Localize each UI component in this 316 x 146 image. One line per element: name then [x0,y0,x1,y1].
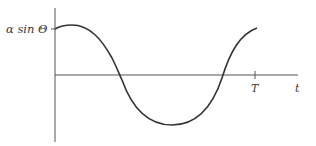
x-axis-label: t [295,82,300,95]
waveform-diagram: α sin Θ T t [0,0,316,146]
y-axis-label: α sin Θ [6,22,48,36]
period-label: T [251,82,260,95]
